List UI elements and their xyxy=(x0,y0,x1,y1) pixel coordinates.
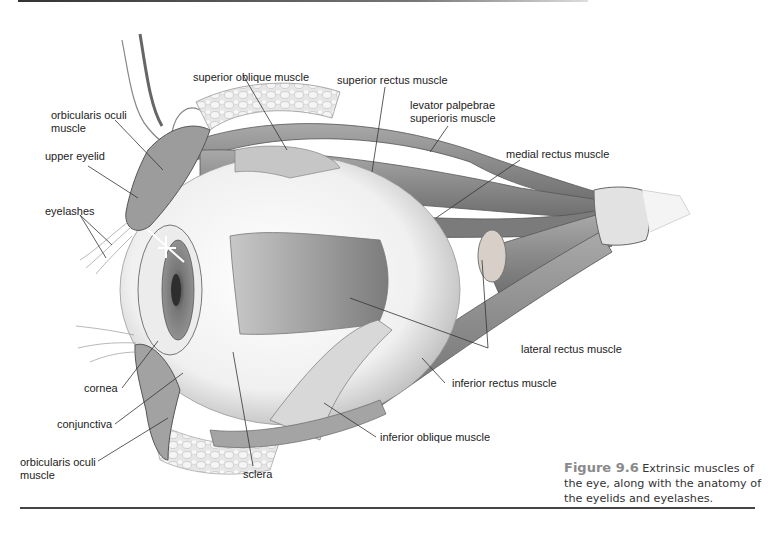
label-sclera: sclera xyxy=(243,468,272,481)
label-orbicularis-oculi-top-line2: muscle xyxy=(51,122,86,135)
label-superior-rectus-muscle: superior rectus muscle xyxy=(337,74,448,87)
label-eyelashes: eyelashes xyxy=(45,205,95,218)
figure-number: Figure 9.6 xyxy=(564,460,639,475)
label-cornea: cornea xyxy=(84,382,118,395)
label-lateral-rectus-muscle: lateral rectus muscle xyxy=(521,343,622,356)
label-inferior-rectus-muscle: inferior rectus muscle xyxy=(452,377,557,390)
label-superior-oblique-muscle: superior oblique muscle xyxy=(193,71,309,84)
label-orbicularis-oculi-bottom-line2: muscle xyxy=(20,469,55,482)
label-inferior-oblique-muscle: inferior oblique muscle xyxy=(380,431,490,444)
label-upper-eyelid: upper eyelid xyxy=(45,150,105,163)
bottom-rule xyxy=(20,507,755,509)
label-levator-palpebrae-line2: superioris muscle xyxy=(410,112,496,125)
label-orbicularis-oculi-bottom-line1: orbicularis oculi xyxy=(20,456,96,469)
label-orbicularis-oculi-top-line1: orbicularis oculi xyxy=(51,109,127,122)
figure-caption: Figure 9.6 Extrinsic muscles of the eye,… xyxy=(564,460,764,506)
label-conjunctiva: conjunctiva xyxy=(57,418,112,431)
label-levator-palpebrae-line1: levator palpebrae xyxy=(410,99,495,112)
label-medial-rectus-muscle: medial rectus muscle xyxy=(506,148,609,161)
